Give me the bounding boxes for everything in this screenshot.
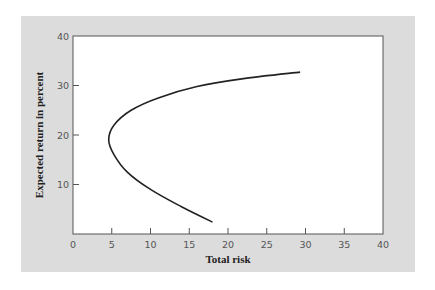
x-tick-label: 25: [261, 239, 273, 250]
y-tick-label: 20: [57, 130, 69, 141]
y-tick-label: 40: [57, 31, 69, 42]
x-tick-label: 40: [377, 239, 389, 250]
plot-area: [73, 36, 383, 234]
x-tick-label: 10: [144, 239, 156, 250]
x-tick-label: 20: [222, 239, 234, 250]
chart: 0510152025303540 10203040 Total risk Exp…: [0, 0, 435, 290]
x-tick-label: 15: [183, 239, 195, 250]
x-tick-label: 30: [299, 239, 311, 250]
x-tick-label: 0: [70, 239, 76, 250]
y-tick-label: 30: [57, 80, 69, 91]
x-axis-title: Total risk: [205, 253, 251, 265]
y-axis-title: Expected return in percent: [33, 71, 45, 198]
y-tick-label: 10: [57, 179, 69, 190]
x-tick-label: 5: [109, 239, 115, 250]
x-tick-label: 35: [338, 239, 350, 250]
